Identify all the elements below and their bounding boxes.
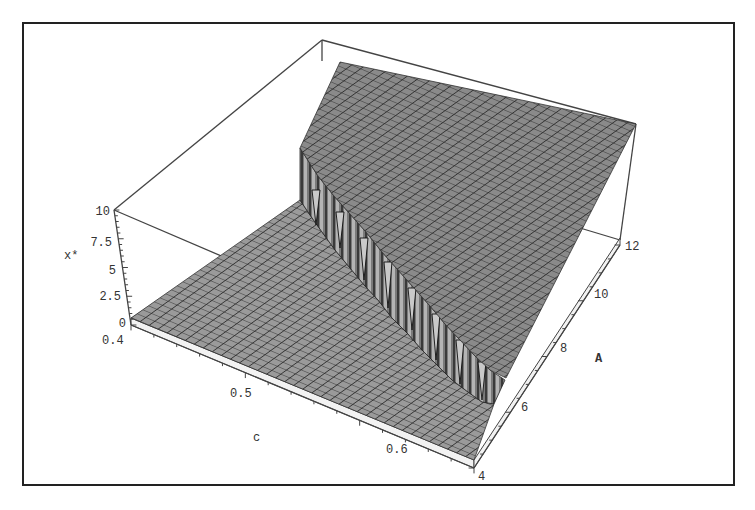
z-tick-label: 5 xyxy=(109,264,116,278)
z-axis-ticks xyxy=(114,210,136,325)
z-tick-label: 7.5 xyxy=(90,236,112,250)
surface-plot: 10 7.5 5 2.5 0 0.4 0.5 0.6 4 6 8 10 12 x… xyxy=(0,0,755,510)
a-tick-label: 8 xyxy=(560,342,567,356)
c-tick-label: 0.5 xyxy=(230,387,252,401)
a-tick-label: 10 xyxy=(594,288,608,302)
z-tick-label: 0 xyxy=(119,317,126,331)
z-tick-label: 2.5 xyxy=(99,290,121,304)
z-tick-label: 10 xyxy=(96,205,110,219)
c-tick-label: 0.6 xyxy=(386,443,408,457)
a-tick-label: 12 xyxy=(625,240,639,254)
chart-stage: 10 7.5 5 2.5 0 0.4 0.5 0.6 4 6 8 10 12 x… xyxy=(0,0,755,510)
a-tick-label: 6 xyxy=(521,401,528,415)
z-tick-labels: 10 7.5 5 2.5 0 xyxy=(90,205,126,331)
c-axis-label: c xyxy=(253,431,260,445)
c-tick-label: 0.4 xyxy=(102,334,124,348)
a-axis-label: A xyxy=(595,352,603,366)
z-axis-label: x* xyxy=(64,249,78,263)
a-tick-label: 4 xyxy=(478,470,485,484)
